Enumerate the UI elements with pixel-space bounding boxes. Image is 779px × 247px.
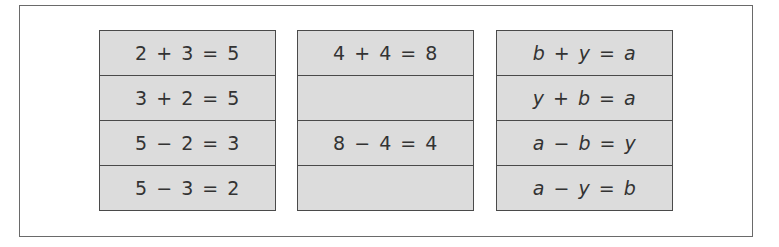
fact-family-box-numeric-2-3-5: 2 + 3 = 5 3 + 2 = 5 5 − 2 = 3 5 − 3 = 2 (99, 30, 276, 211)
fact-family-box-numeric-4-4-8: 4 + 4 = 8 8 − 4 = 4 (297, 30, 474, 211)
equation-row: a − y = b (497, 165, 672, 210)
equation-row: b + y = a (497, 31, 672, 75)
fact-family-box-algebraic-a-b-y: b + y = a y + b = a a − b = y a − y = b (496, 30, 673, 211)
equation-row: 4 + 4 = 8 (298, 31, 473, 75)
equation-row: 3 + 2 = 5 (100, 75, 275, 120)
equation-row: 5 − 2 = 3 (100, 120, 275, 165)
equation-row: a − b = y (497, 120, 672, 165)
equation-row: y + b = a (497, 75, 672, 120)
equation-row: 2 + 3 = 5 (100, 31, 275, 75)
equation-row: 8 − 4 = 4 (298, 120, 473, 165)
equation-row-empty (298, 75, 473, 120)
equation-row: 5 − 3 = 2 (100, 165, 275, 210)
equation-row-empty (298, 165, 473, 210)
